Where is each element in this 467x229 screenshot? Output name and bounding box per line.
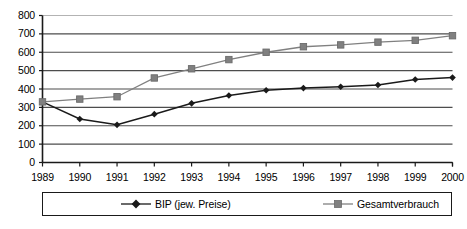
legend-item-gesamtverbrauch: Gesamtverbrauch (323, 193, 439, 215)
data-point-marker (337, 42, 343, 48)
x-tick-label-1989: 1989 (26, 172, 60, 183)
series-line (43, 78, 453, 125)
data-point-marker (263, 49, 269, 55)
x-tick-label-1994: 1994 (212, 172, 246, 183)
data-point-marker (412, 37, 418, 43)
data-point-marker (226, 92, 233, 99)
data-point-marker (114, 122, 121, 129)
data-point-marker (39, 99, 45, 105)
data-point-marker (76, 116, 83, 123)
y-tick-label-0: 0 (5, 157, 35, 168)
data-point-marker (263, 87, 270, 94)
data-point-marker (449, 74, 456, 81)
series-bip (39, 74, 456, 128)
legend-marker-square-icon (323, 198, 353, 210)
y-tick-label-500: 500 (5, 65, 35, 76)
x-tick-label-1992: 1992 (137, 172, 171, 183)
series-line (43, 36, 453, 102)
legend-label-bip: BIP (jew. Preise) (155, 199, 231, 210)
x-tick-label-2000: 2000 (436, 172, 467, 183)
data-point-marker (412, 76, 419, 83)
y-tick-label-600: 600 (5, 47, 35, 58)
data-point-marker (300, 44, 306, 50)
data-point-marker (151, 75, 157, 81)
y-tick-label-800: 800 (5, 10, 35, 21)
x-tick-label-1990: 1990 (63, 172, 97, 183)
x-tick-label-1993: 1993 (175, 172, 209, 183)
data-point-marker (114, 94, 120, 100)
legend-marker-diamond-icon (121, 198, 151, 210)
y-tick-label-400: 400 (5, 84, 35, 95)
legend-item-bip: BIP (jew. Preise) (121, 193, 231, 215)
x-tick-label-1999: 1999 (398, 172, 432, 183)
legend-label-gesamtverbrauch: Gesamtverbrauch (357, 199, 439, 210)
line-chart: 8007006005004003002001000 19891990199119… (0, 0, 467, 229)
y-tick-label-200: 200 (5, 120, 35, 131)
y-tick-label-700: 700 (5, 28, 35, 39)
x-tick-label-1991: 1991 (100, 172, 134, 183)
gridlines (43, 16, 453, 163)
data-point-marker (151, 111, 158, 118)
chart-legend: BIP (jew. Preise) Gesamtverbrauch (42, 192, 452, 216)
data-point-marker (375, 82, 382, 89)
x-tick-label-1996: 1996 (286, 172, 320, 183)
data-series-layer (39, 33, 456, 129)
data-point-marker (188, 100, 195, 107)
data-point-marker (449, 33, 455, 39)
data-point-marker (375, 39, 381, 45)
y-tick-label-100: 100 (5, 139, 35, 150)
series-gesamtverbrauch (39, 33, 455, 106)
x-tick-label-1997: 1997 (324, 172, 358, 183)
x-tick-label-1995: 1995 (249, 172, 283, 183)
data-point-marker (300, 85, 307, 92)
data-point-marker (226, 56, 232, 62)
data-point-marker (77, 96, 83, 102)
data-point-marker (188, 66, 194, 72)
x-tick-label-1998: 1998 (361, 172, 395, 183)
y-tick-label-300: 300 (5, 102, 35, 113)
